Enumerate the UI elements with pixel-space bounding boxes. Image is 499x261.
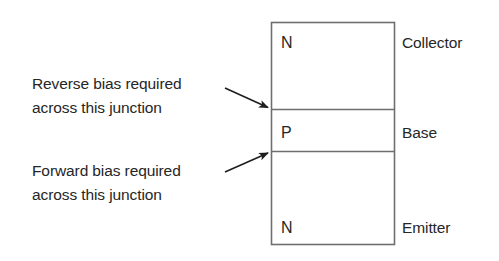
reverse-bias-label-line1: Reverse bias required [32, 75, 182, 93]
forward-bias-label-line2: across this junction [32, 186, 162, 204]
base-label: Base [402, 124, 437, 142]
emitter-region-letter: N [281, 219, 292, 237]
transistor-diagram: N P N Collector Base Emitter Reverse bia… [0, 0, 499, 261]
collector-label: Collector [402, 34, 462, 52]
emitter-label: Emitter [402, 219, 450, 237]
forward-bias-label-line1: Forward bias required [32, 162, 181, 180]
reverse-bias-arrow-icon [225, 88, 268, 108]
collector-region-letter: N [281, 34, 292, 52]
forward-bias-arrow-icon [225, 153, 268, 172]
base-region-letter: P [281, 124, 292, 142]
reverse-bias-label-line2: across this junction [32, 99, 162, 117]
